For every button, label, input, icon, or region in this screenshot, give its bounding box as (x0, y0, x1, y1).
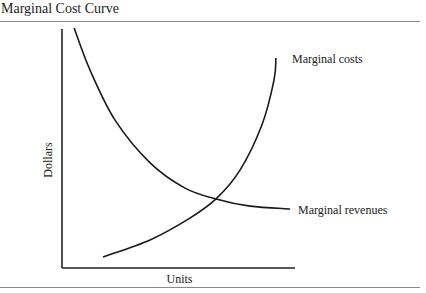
series-line-marginal-costs (103, 58, 276, 257)
x-axis-label: Units (166, 272, 192, 286)
series-label-marginal-costs: Marginal costs (292, 52, 363, 66)
chart-plot: Units Dollars Marginal costs Marginal re… (0, 0, 426, 293)
series-line-marginal-revenues (74, 28, 290, 209)
series-label-marginal-revenues: Marginal revenues (298, 203, 388, 217)
y-axis-label: Dollars (41, 142, 55, 178)
series-layer (74, 28, 290, 257)
